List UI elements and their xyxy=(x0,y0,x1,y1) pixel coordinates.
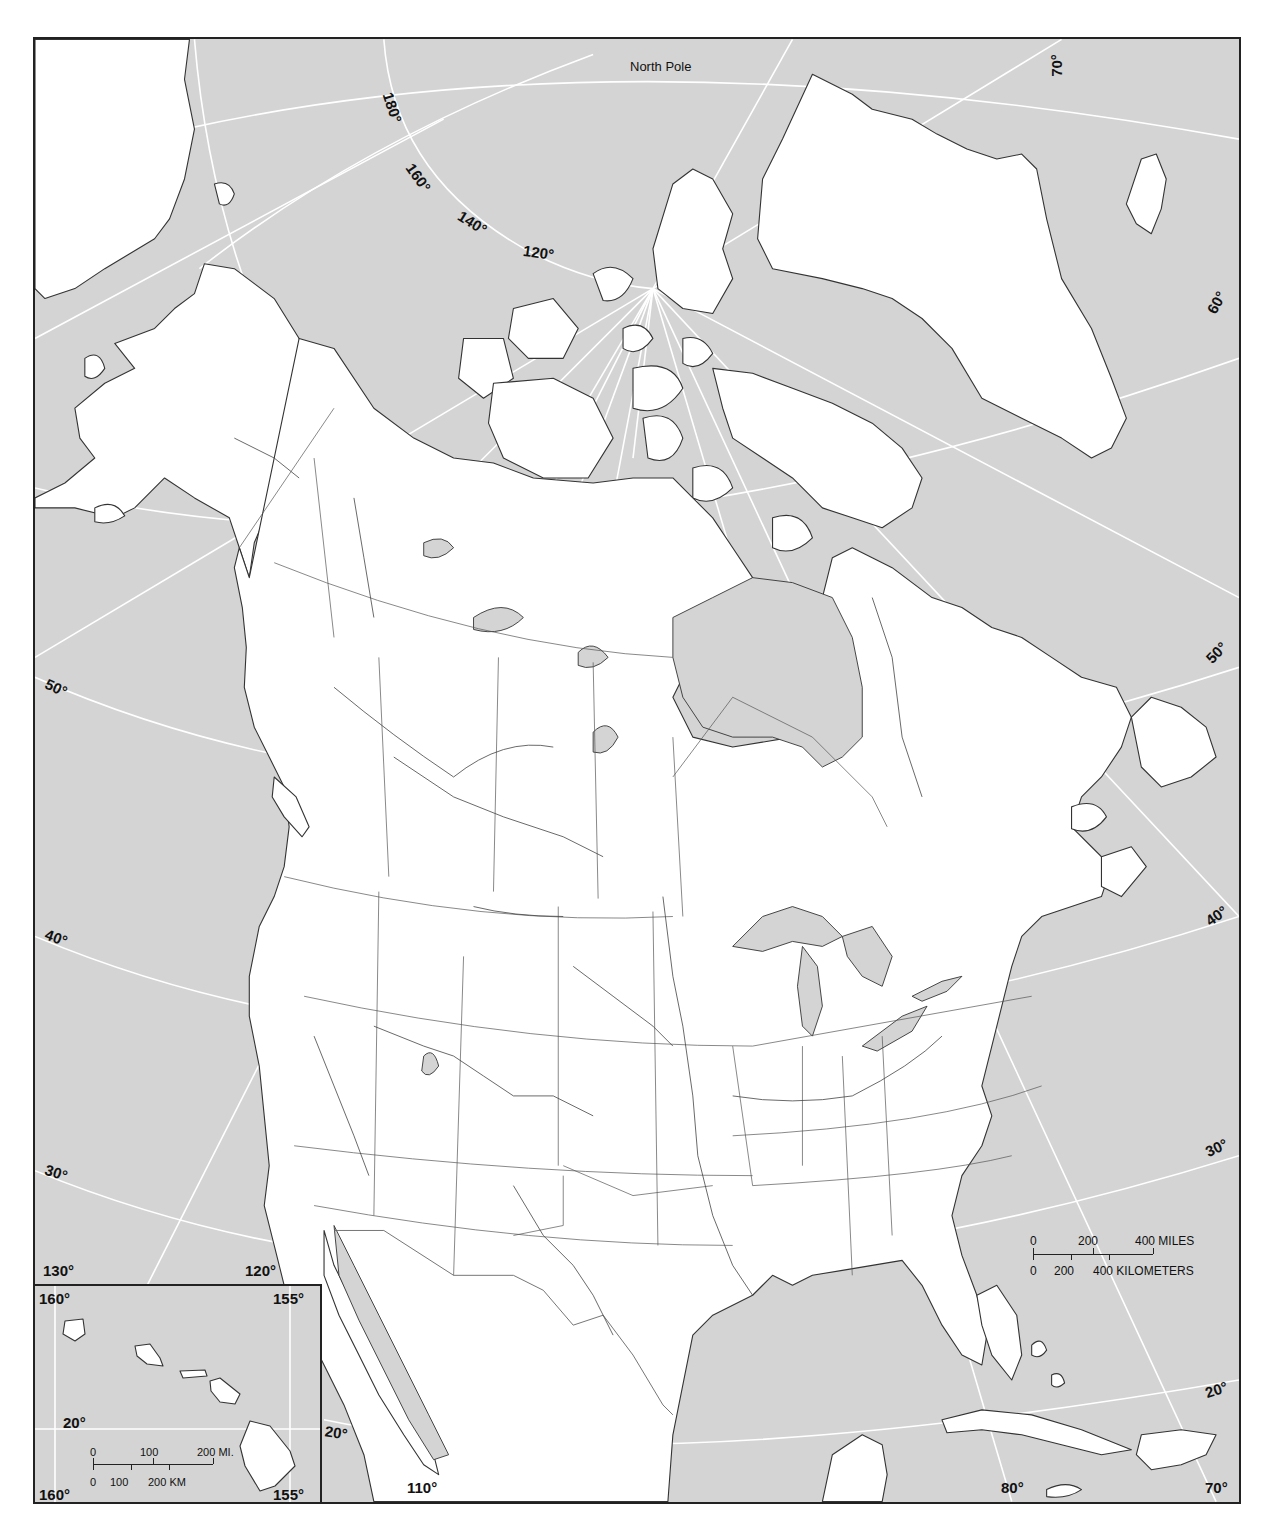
inset-scale-mi-0: 0 xyxy=(90,1446,96,1458)
inset-scale-km-100: 100 xyxy=(110,1476,128,1488)
inset-label-155-bottom: 155° xyxy=(273,1486,304,1503)
inset-label-20: 20° xyxy=(63,1414,86,1431)
inset-scale-mi-100: 100 xyxy=(140,1446,158,1458)
meridian-label-120-bottom: 120° xyxy=(245,1262,276,1279)
scale-km-0: 0 xyxy=(1030,1264,1037,1278)
scale-miles-200: 200 xyxy=(1078,1234,1098,1248)
inset-scale-km-200: 200 KM xyxy=(148,1476,186,1488)
meridian-label-110: 110° xyxy=(407,1479,437,1496)
jamaica xyxy=(1047,1485,1082,1498)
hispaniola xyxy=(1136,1430,1216,1470)
parallel-label-20-left: 20° xyxy=(324,1423,349,1443)
meridian-label-80: 80° xyxy=(1001,1479,1024,1496)
scale-miles-0: 0 xyxy=(1030,1234,1037,1248)
inset-scale-mi-200: 200 MI. xyxy=(197,1446,234,1458)
molokai xyxy=(180,1370,207,1378)
meridian-label-70-bottom: 70° xyxy=(1205,1479,1228,1496)
inset-label-160-bottom: 160° xyxy=(39,1486,70,1503)
north-pole-label: North Pole xyxy=(630,59,691,74)
yucatan-peninsula xyxy=(822,1435,887,1502)
cuba xyxy=(942,1410,1131,1455)
siberia-landmass xyxy=(35,39,194,298)
inset-label-155-top: 155° xyxy=(273,1290,304,1307)
maui xyxy=(210,1378,240,1404)
ellesmere-island xyxy=(653,169,733,314)
inset-label-160-top: 160° xyxy=(39,1290,70,1307)
map-frame: North Pole 180° 160° 140° 120° 70° 50° 4… xyxy=(33,37,1241,1504)
meridian-label-70-top: 70° xyxy=(1048,54,1065,77)
scale-bar: 0 200 400 MILES 0 200 400 KILOMETERS xyxy=(1030,1234,1230,1294)
hawaii-inset: 160° 155° 20° 160° 155° 0 100 200 MI. 0 … xyxy=(35,1284,322,1504)
newfoundland xyxy=(1131,697,1216,787)
meridian-label-130: 130° xyxy=(43,1262,74,1279)
inset-scale-km-0: 0 xyxy=(90,1476,96,1488)
scale-km-400: 400 KILOMETERS xyxy=(1093,1264,1194,1278)
inset-scale-bar: 0 100 200 MI. 0 100 200 KM xyxy=(90,1446,250,1496)
oahu xyxy=(135,1344,163,1366)
scale-km-200: 200 xyxy=(1054,1264,1074,1278)
scale-miles-400: 400 MILES xyxy=(1135,1234,1194,1248)
baffin-island xyxy=(713,368,922,527)
kauai xyxy=(63,1319,85,1341)
